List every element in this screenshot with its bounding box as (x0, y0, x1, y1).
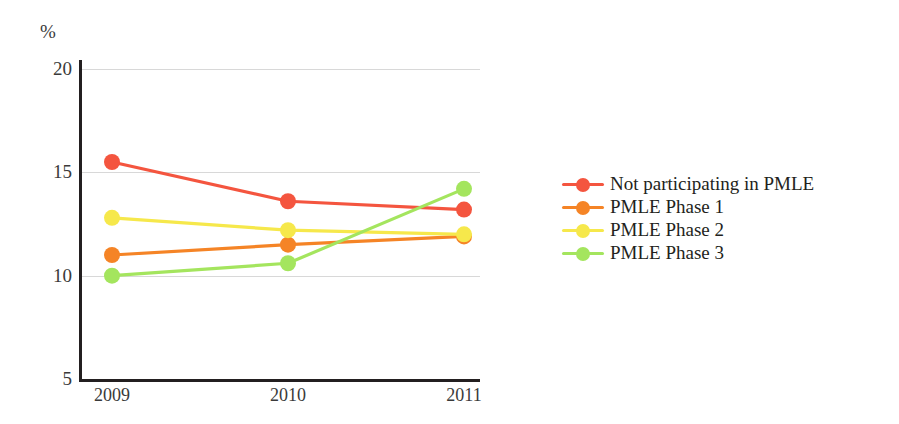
legend-dot (576, 178, 590, 192)
data-point-marker (456, 181, 472, 197)
legend-swatch-icon (562, 245, 604, 261)
data-point-marker (104, 247, 120, 263)
data-point-marker (456, 202, 472, 218)
legend-item[interactable]: PMLE Phase 3 (562, 241, 892, 264)
legend-item[interactable]: PMLE Phase 2 (562, 218, 892, 241)
data-point-marker (456, 226, 472, 242)
data-point-marker (280, 222, 296, 238)
legend-item-label: PMLE Phase 3 (604, 243, 724, 262)
series-layer (0, 0, 540, 424)
data-point-marker (280, 193, 296, 209)
legend-dot (576, 224, 590, 238)
legend-item-label: PMLE Phase 1 (604, 197, 724, 216)
legend-item-label: Not participating in PMLE (604, 174, 814, 193)
legend-swatch-icon (562, 199, 604, 215)
legend-dot (576, 247, 590, 261)
chart-legend: Not participating in PMLEPMLE Phase 1PML… (562, 172, 892, 264)
legend-item-label: PMLE Phase 2 (604, 220, 724, 239)
legend-item[interactable]: Not participating in PMLE (562, 172, 892, 195)
data-point-marker (104, 268, 120, 284)
line-chart: % 2015105 200920102011 Not participating… (0, 0, 899, 424)
data-point-marker (280, 255, 296, 271)
data-point-marker (104, 154, 120, 170)
legend-dot (576, 201, 590, 215)
legend-swatch-icon (562, 222, 604, 238)
legend-item[interactable]: PMLE Phase 1 (562, 195, 892, 218)
legend-swatch-icon (562, 176, 604, 192)
data-point-marker (104, 210, 120, 226)
data-point-marker (280, 237, 296, 253)
plot-area: % 2015105 200920102011 (0, 0, 540, 424)
